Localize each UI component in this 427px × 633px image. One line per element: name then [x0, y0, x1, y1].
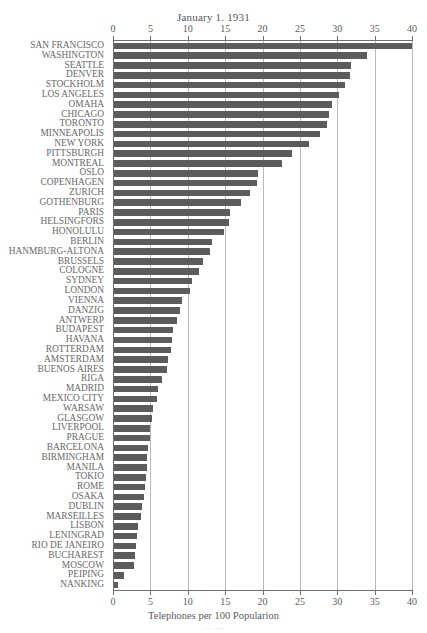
tick-label-bottom-20: 20	[248, 596, 278, 607]
bar	[114, 503, 142, 510]
tick-mark-top-15	[225, 36, 226, 40]
tick-label-bottom-35: 35	[360, 596, 390, 607]
tick-label-top-15: 15	[210, 23, 240, 34]
bar	[114, 248, 210, 255]
tick-label-bottom-15: 15	[210, 596, 240, 607]
tick-mark-bottom-20	[263, 591, 264, 595]
tick-mark-bottom-30	[337, 591, 338, 595]
bar	[114, 523, 138, 530]
tick-label-bottom-30: 30	[322, 596, 352, 607]
bar	[114, 82, 345, 89]
footer-mark: –– ––	[0, 624, 427, 632]
bar	[114, 72, 350, 79]
tick-label-top-5: 5	[135, 23, 165, 34]
bar	[114, 199, 241, 206]
bar	[114, 464, 147, 471]
bar	[114, 121, 327, 128]
tick-label-bottom-10: 10	[173, 596, 203, 607]
bar	[114, 268, 199, 275]
bar	[114, 209, 230, 216]
bar	[114, 258, 203, 265]
bar	[114, 572, 124, 579]
tick-label-top-30: 30	[322, 23, 352, 34]
bar	[114, 229, 224, 236]
tick-mark-top-5	[150, 36, 151, 40]
chart-title: January 1. 1931	[0, 11, 427, 23]
bar	[114, 111, 329, 118]
tick-label-top-35: 35	[360, 23, 390, 34]
bar	[114, 288, 190, 295]
tick-label-bottom-5: 5	[135, 596, 165, 607]
bar	[114, 474, 146, 481]
bar	[114, 533, 137, 540]
bar	[114, 376, 162, 383]
tick-mark-top-20	[263, 36, 264, 40]
bar	[114, 552, 135, 559]
bar	[114, 337, 172, 344]
bar	[114, 435, 150, 442]
bar	[114, 445, 148, 452]
tick-mark-bottom-15	[225, 591, 226, 595]
bar	[114, 543, 136, 550]
tick-mark-bottom-10	[188, 591, 189, 595]
tick-label-bottom-40: 40	[397, 596, 427, 607]
tick-mark-top-0	[113, 36, 114, 40]
bar	[114, 415, 152, 422]
bar	[114, 396, 157, 403]
tick-mark-top-40	[412, 36, 413, 40]
tick-label-top-20: 20	[248, 23, 278, 34]
x-axis-label: Telephones per 100 Popularion	[0, 610, 427, 621]
tick-mark-bottom-40	[412, 591, 413, 595]
bar	[114, 297, 182, 304]
tick-label-top-25: 25	[285, 23, 315, 34]
bar	[114, 386, 158, 393]
bar	[114, 405, 153, 412]
bar	[114, 43, 412, 50]
bar	[114, 494, 144, 501]
bar	[114, 62, 351, 69]
bar	[114, 307, 180, 314]
bar	[114, 190, 250, 197]
bar	[114, 582, 118, 589]
tick-label-bottom-0: 0	[98, 596, 128, 607]
bar	[114, 170, 258, 177]
bar	[114, 454, 147, 461]
bar	[114, 366, 167, 373]
tick-mark-top-35	[375, 36, 376, 40]
tick-label-top-40: 40	[397, 23, 427, 34]
bar	[114, 92, 339, 99]
bar	[114, 160, 282, 167]
category-label: NANKING	[0, 579, 104, 590]
bar	[114, 180, 257, 187]
bar	[114, 513, 141, 520]
tick-mark-bottom-0	[113, 591, 114, 595]
bar-rows: SAN FRANCISCOWASHINGTONSEATTLEDENVERSTOC…	[0, 41, 427, 590]
tick-mark-top-25	[300, 36, 301, 40]
bar	[114, 219, 229, 226]
bar	[114, 356, 168, 363]
bar	[114, 484, 145, 491]
tick-mark-bottom-5	[150, 591, 151, 595]
bar	[114, 278, 192, 285]
bar	[114, 239, 212, 246]
bar	[114, 317, 177, 324]
telephones-bar-chart: January 1. 1931 005510101515202025253030…	[0, 0, 427, 633]
tick-label-top-0: 0	[98, 23, 128, 34]
tick-mark-top-30	[337, 36, 338, 40]
tick-mark-top-10	[188, 36, 189, 40]
tick-label-bottom-25: 25	[285, 596, 315, 607]
bar	[114, 131, 320, 138]
tick-mark-bottom-35	[375, 591, 376, 595]
bar	[114, 327, 173, 334]
bar	[114, 52, 367, 59]
bar	[114, 150, 292, 157]
tick-label-top-10: 10	[173, 23, 203, 34]
bar	[114, 425, 150, 432]
bar	[114, 562, 134, 569]
tick-mark-bottom-25	[300, 591, 301, 595]
bar	[114, 101, 332, 108]
bar	[114, 141, 309, 148]
bar	[114, 347, 171, 354]
bar-row: NANKING	[0, 580, 427, 590]
